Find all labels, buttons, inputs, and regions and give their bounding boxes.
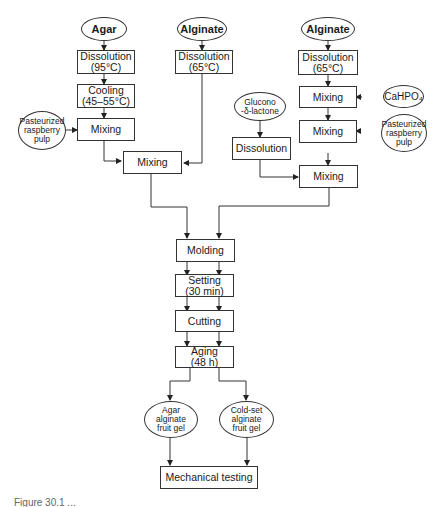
node-alginate-1: Alginate bbox=[177, 17, 227, 41]
figure-caption: Figure 30.1 ... bbox=[14, 497, 442, 507]
node-pulp-1: Pasteurized raspberry pulp bbox=[18, 111, 66, 150]
node-aging: Aging (48 h) bbox=[175, 346, 234, 368]
node-agar-alginate-gel: Agar alginate fruit gel bbox=[144, 401, 198, 438]
node-cutting: Cutting bbox=[175, 310, 234, 332]
node-alginate-2: Alginate bbox=[301, 17, 355, 41]
node-mixing-b2: Mixing bbox=[299, 120, 357, 143]
node-gdl: Glucono -δ-lactone bbox=[234, 92, 286, 121]
node-mixing-b3: Mixing bbox=[299, 165, 358, 188]
node-mixing-b1: Mixing bbox=[299, 86, 357, 108]
node-dissolution-95: Dissolution (95°C) bbox=[77, 50, 135, 74]
node-mechanical-testing: Mechanical testing bbox=[160, 466, 258, 489]
node-dissolution-65-a: Dissolution (65°C) bbox=[175, 50, 233, 74]
node-cold-set-gel: Cold-set alginate fruit gel bbox=[219, 401, 274, 438]
node-pulp-2: Pasteurized raspberry pulp bbox=[381, 114, 427, 152]
node-cahpo4: CaHPO₄ bbox=[383, 85, 424, 108]
node-molding: Molding bbox=[176, 239, 235, 262]
node-mixing-a2: Mixing bbox=[123, 151, 182, 174]
node-dissolution-65-b: Dissolution (65°C) bbox=[298, 50, 358, 75]
node-cooling: Cooling (45–55°C) bbox=[77, 84, 135, 108]
node-dissolution-gdl: Dissolution bbox=[232, 137, 291, 160]
node-setting: Setting (30 min) bbox=[175, 274, 234, 297]
node-mixing-a1: Mixing bbox=[77, 118, 135, 141]
node-agar: Agar bbox=[81, 17, 127, 41]
